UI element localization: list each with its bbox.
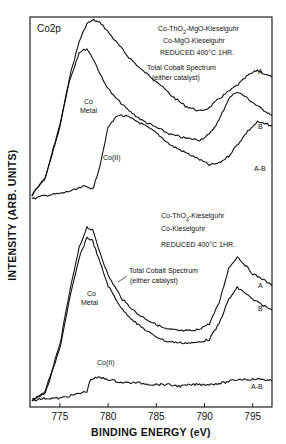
bottom-catalyst-1: Co-ThO2-Kieselguhr xyxy=(161,212,225,222)
chart-title: Co2p xyxy=(37,23,61,34)
y-axis-title: INTENSITY (ARB. UNITS) xyxy=(6,149,18,280)
x-tick-label: 780 xyxy=(100,411,117,422)
bottom-total-label-2: (either catalyst) xyxy=(130,277,178,285)
top-catalyst-1: Co-ThO2-MgO-Kieselguhr xyxy=(158,25,240,35)
bottom-series-B-label: B xyxy=(258,305,263,312)
top-total-label-2: (either catalyst) xyxy=(152,74,200,82)
x-tick-label: 775 xyxy=(52,411,69,422)
xps-chart: Co2p Co-ThO2-MgO-Kieselguhr Co-MgO-Kiese… xyxy=(0,0,286,444)
bottom-curve-A xyxy=(32,227,272,400)
x-axis-ticks: 775780785790795 xyxy=(52,403,262,422)
x-tick-label: 795 xyxy=(244,411,261,422)
top-series-A-label: A xyxy=(258,68,263,75)
bottom-co2-label: Co(II) xyxy=(97,359,115,367)
top-condition: REDUCED 400°C 1HR. xyxy=(160,49,234,56)
top-catalyst-2: Co-MgO-Kieselguhr xyxy=(163,37,226,45)
bottom-co-metal-label-2: Metal xyxy=(81,299,99,306)
top-co2-label: Co(II) xyxy=(103,154,121,162)
top-co-metal-label-2: Metal xyxy=(80,107,98,114)
top-total-label-1: Total Cobalt Spectrum xyxy=(147,64,216,72)
x-tick-label: 790 xyxy=(196,411,213,422)
bottom-catalyst-2: Co-Kieselguhr xyxy=(161,225,206,233)
bottom-total-label-1: Total Cobalt Spectrum xyxy=(129,267,198,275)
bottom-total-leader xyxy=(118,276,127,282)
bottom-series-A-label: A xyxy=(258,282,263,289)
bottom-series-AB-label: A-B xyxy=(251,383,263,390)
plot-frame xyxy=(30,17,272,407)
bottom-curve-A-minus-B xyxy=(32,377,272,401)
bottom-curve-B xyxy=(32,237,272,401)
x-axis-title: BINDING ENERGY (eV) xyxy=(91,426,211,438)
top-co-metal-label-1: Co xyxy=(84,98,93,105)
top-curve-A-minus-B xyxy=(32,115,272,199)
top-series-B-label: B xyxy=(258,123,263,130)
top-series-AB-label: A-B xyxy=(254,165,266,172)
top-curve-A xyxy=(32,19,272,195)
x-tick-label: 785 xyxy=(148,411,165,422)
bottom-condition: REDUCED 400°C 1HR. xyxy=(161,241,235,248)
bottom-co-metal-label-1: Co xyxy=(87,290,96,297)
